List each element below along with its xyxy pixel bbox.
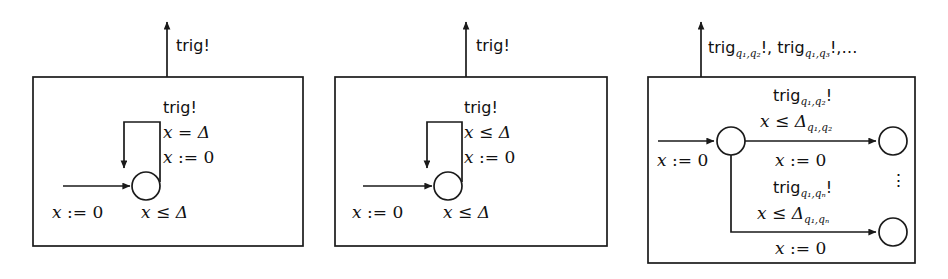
panel-3-source-location bbox=[717, 127, 745, 155]
guard-var: x bbox=[163, 122, 173, 142]
panel-3-target-location-lower bbox=[879, 218, 907, 246]
panel-3-transition-lower-guard: x ≤ Δq₁,qₙ bbox=[757, 205, 829, 222]
guard-op: ≤ bbox=[775, 111, 789, 131]
panel-2-self-loop-reset: x := 0 bbox=[464, 149, 515, 166]
panel-1-entry-reset: x := 0 bbox=[52, 204, 103, 221]
guard-bound: Δ bbox=[198, 122, 210, 142]
guard-op: ≤ bbox=[479, 122, 493, 142]
guard-bound: Δ bbox=[499, 122, 511, 142]
invariant-var: x bbox=[443, 202, 453, 222]
panel-2-invariant: x ≤ Δ bbox=[443, 204, 490, 221]
reset-var: x bbox=[52, 202, 62, 222]
sync-subscript: q₁,q₂ bbox=[735, 47, 760, 59]
invariant-bound: Δ bbox=[176, 202, 188, 222]
reset-op: := bbox=[790, 238, 810, 258]
guard-op: = bbox=[178, 122, 192, 142]
panel-3-transition-lower-reset: x := 0 bbox=[775, 240, 826, 257]
reset-op: := bbox=[67, 202, 87, 222]
guard-op: ≤ bbox=[772, 203, 786, 223]
sync-subscript: q₁,q₃ bbox=[805, 47, 830, 59]
panel-3-transition-upper-reset: x := 0 bbox=[775, 152, 826, 169]
panel-1-self-loop-sync: trig! bbox=[163, 100, 197, 116]
panel-3-transition-upper-guard: x ≤ Δq₁,q₂ bbox=[760, 113, 832, 130]
panel-2-output-label: trig! bbox=[476, 38, 510, 54]
sync-bang: !, bbox=[761, 38, 773, 57]
sync-name: trig bbox=[708, 38, 735, 57]
guard-bound: Δ bbox=[792, 203, 804, 223]
panel-3-vertical-ellipsis: ⋮ bbox=[890, 172, 907, 189]
sync-bang: ! bbox=[826, 178, 832, 197]
sync-bang: ! bbox=[826, 86, 832, 105]
reset-value: 0 bbox=[203, 147, 214, 167]
guard-var: x bbox=[464, 122, 474, 142]
invariant-op: ≤ bbox=[458, 202, 472, 222]
panel-1-self-loop-reset: x := 0 bbox=[163, 149, 214, 166]
sync-bang: !, bbox=[830, 38, 842, 57]
panel-1-self-loop-guard: x = Δ bbox=[163, 124, 210, 141]
reset-value: 0 bbox=[92, 202, 103, 222]
reset-value: 0 bbox=[392, 202, 403, 222]
guard-var: x bbox=[760, 111, 770, 131]
panel-3-transition-upper-sync: trigq₁,q₂! bbox=[773, 88, 832, 104]
reset-var: x bbox=[657, 150, 667, 170]
invariant-var: x bbox=[141, 202, 151, 222]
figure-canvas: trig! trig! x = Δ x := 0 x := 0 x ≤ Δ tr… bbox=[0, 0, 948, 279]
panel-3-entry-reset: x := 0 bbox=[657, 152, 708, 169]
ellipsis: … bbox=[841, 38, 857, 57]
guard-bound-subscript: q₁,q₂ bbox=[807, 121, 832, 133]
reset-value: 0 bbox=[504, 147, 515, 167]
panel-2-self-loop-guard: x ≤ Δ bbox=[464, 124, 511, 141]
panel-1-invariant: x ≤ Δ bbox=[141, 204, 188, 221]
panel-3-output-label: trigq₁,q₂!, trigq₁,q₃!,… bbox=[708, 40, 857, 56]
reset-op: := bbox=[790, 150, 810, 170]
reset-op: := bbox=[178, 147, 198, 167]
reset-var: x bbox=[464, 147, 474, 167]
panel-2-location bbox=[434, 172, 462, 200]
reset-var: x bbox=[775, 150, 785, 170]
sync-name: trig bbox=[773, 86, 800, 105]
invariant-op: ≤ bbox=[156, 202, 170, 222]
sync-subscript: q₁,q₂ bbox=[800, 95, 825, 107]
reset-var: x bbox=[352, 202, 362, 222]
reset-value: 0 bbox=[697, 150, 708, 170]
reset-op: := bbox=[479, 147, 499, 167]
invariant-bound: Δ bbox=[478, 202, 490, 222]
guard-bound: Δ bbox=[795, 111, 807, 131]
guard-bound-subscript: q₁,qₙ bbox=[804, 213, 829, 225]
sync-name: trig bbox=[777, 38, 804, 57]
panel-2-entry-reset: x := 0 bbox=[352, 204, 403, 221]
reset-var: x bbox=[775, 238, 785, 258]
reset-op: := bbox=[672, 150, 692, 170]
reset-value: 0 bbox=[815, 150, 826, 170]
reset-value: 0 bbox=[815, 238, 826, 258]
sync-subscript: q₁,qₙ bbox=[800, 187, 825, 199]
panel-3-transition-lower-sync: trigq₁,qₙ! bbox=[773, 180, 832, 196]
panel-1-output-label: trig! bbox=[176, 38, 210, 54]
panel-2-self-loop-sync: trig! bbox=[464, 100, 498, 116]
reset-op: := bbox=[367, 202, 387, 222]
sync-name: trig bbox=[773, 178, 800, 197]
panel-3-target-location-upper bbox=[879, 127, 907, 155]
reset-var: x bbox=[163, 147, 173, 167]
guard-var: x bbox=[757, 203, 767, 223]
panel-1-location bbox=[132, 172, 160, 200]
